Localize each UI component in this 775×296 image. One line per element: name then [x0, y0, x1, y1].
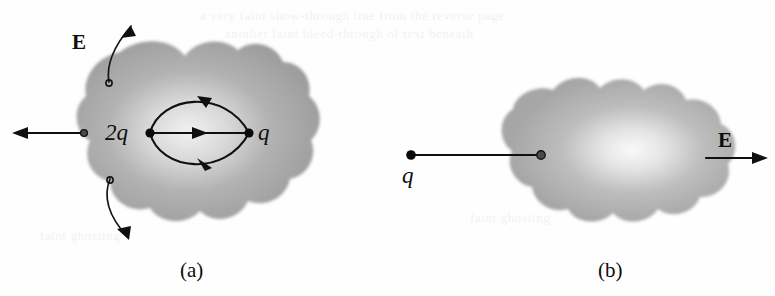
field-point-left-a	[81, 130, 88, 137]
panel-b-group: q E (b)	[402, 78, 768, 282]
charge-dot-q-b	[406, 150, 416, 160]
charge-dot-q-a	[244, 128, 253, 137]
caption-panel-a: (a)	[180, 258, 203, 282]
gaussian-surface-b	[502, 78, 736, 222]
figure-drawing: 2q q E (a) q E (b)	[0, 0, 775, 296]
label-field-E-b: E	[718, 128, 732, 152]
label-field-E-a: E	[72, 30, 86, 54]
interior-point-b	[537, 151, 545, 159]
label-charge-q-a: q	[258, 120, 270, 145]
field-arrow-right-head-b	[752, 152, 768, 164]
field-arrow-left-head-a	[12, 127, 28, 139]
figure-container: a very faint show-through line from the …	[0, 0, 775, 296]
caption-panel-b: (b)	[598, 258, 623, 282]
charge-dot-2q	[145, 128, 154, 137]
panel-a-group: 2q q E (a)	[12, 26, 320, 282]
label-charge-q-b: q	[402, 163, 414, 188]
label-charge-2q: 2q	[105, 120, 128, 145]
field-arrow-lower-head-a	[117, 226, 131, 240]
